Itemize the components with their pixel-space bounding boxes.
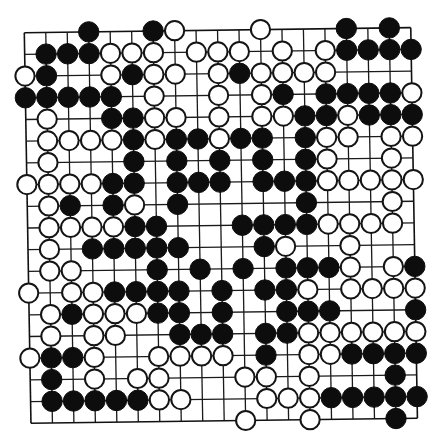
white-stone (404, 170, 423, 189)
black-stone (210, 150, 230, 170)
black-stone (191, 324, 211, 344)
white-stone (341, 258, 360, 277)
black-stone (104, 282, 124, 302)
white-stone (84, 304, 103, 323)
white-stone (403, 127, 422, 146)
white-stone (40, 262, 59, 281)
white-stone (321, 323, 340, 342)
white-stone (122, 43, 141, 62)
white-stone (187, 43, 206, 62)
white-stone (273, 41, 292, 60)
black-stone (364, 387, 384, 407)
white-stone (341, 279, 360, 298)
white-stone (62, 261, 81, 280)
black-stone (42, 391, 62, 411)
white-stone (339, 171, 358, 190)
black-stone (58, 87, 78, 107)
black-stone (254, 236, 274, 256)
white-stone (300, 388, 319, 407)
black-stone (316, 105, 336, 125)
white-stone (257, 389, 276, 408)
white-stone (385, 322, 404, 341)
black-stone (170, 324, 190, 344)
black-stone (253, 150, 273, 170)
black-stone (167, 194, 187, 214)
white-stone (209, 107, 228, 126)
black-stone (381, 105, 401, 125)
white-stone (39, 175, 58, 194)
white-stone (340, 236, 359, 255)
white-stone (84, 283, 103, 302)
white-stone (85, 370, 104, 389)
white-stone (301, 410, 320, 429)
white-stone (17, 175, 36, 194)
white-stone (295, 63, 314, 82)
black-stone (128, 390, 148, 410)
white-stone (384, 257, 403, 276)
black-stone (401, 39, 421, 59)
black-stone (189, 172, 209, 192)
white-stone (105, 304, 124, 323)
white-stone (252, 85, 271, 104)
white-stone (38, 110, 57, 129)
white-stone (274, 107, 293, 126)
black-stone (210, 172, 230, 192)
black-stone (319, 257, 339, 277)
black-stone (123, 130, 143, 150)
black-stone (63, 391, 83, 411)
black-stone (275, 214, 295, 234)
white-stone (209, 64, 228, 83)
white-stone (39, 196, 58, 215)
white-stone (251, 20, 270, 39)
black-stone (166, 129, 186, 149)
white-stone (382, 170, 401, 189)
white-stone (171, 347, 190, 366)
black-stone (316, 84, 336, 104)
white-stone (319, 215, 338, 234)
white-stone (128, 369, 147, 388)
black-stone (342, 387, 362, 407)
white-stone (40, 218, 59, 237)
black-stone (297, 214, 317, 234)
white-stone (82, 218, 101, 237)
white-stone (382, 149, 401, 168)
white-stone (209, 86, 228, 105)
black-stone (148, 303, 168, 323)
black-stone (255, 280, 275, 300)
white-stone (279, 389, 298, 408)
black-stone (358, 40, 378, 60)
black-stone (147, 238, 167, 258)
black-stone (336, 18, 356, 38)
white-stone (15, 67, 34, 86)
black-stone (276, 258, 296, 278)
black-stone (233, 258, 253, 278)
black-stone (62, 304, 82, 324)
white-stone (318, 149, 337, 168)
black-stone (359, 83, 379, 103)
white-stone (236, 411, 255, 430)
white-stone (82, 174, 101, 193)
black-stone (295, 149, 315, 169)
black-stone (274, 171, 294, 191)
white-stone (299, 345, 318, 364)
black-stone (41, 348, 61, 368)
white-stone (210, 129, 229, 148)
white-stone (276, 237, 295, 256)
white-stone (144, 43, 163, 62)
white-stone (19, 284, 38, 303)
white-stone (235, 368, 254, 387)
black-stone (386, 408, 406, 428)
black-stone (169, 303, 189, 323)
black-stone (167, 172, 187, 192)
black-stone (143, 21, 163, 41)
white-stone (257, 367, 276, 386)
black-stone (296, 193, 316, 213)
white-stone (149, 369, 168, 388)
black-stone (212, 302, 232, 322)
black-stone (321, 388, 341, 408)
black-stone (80, 87, 100, 107)
white-stone (41, 305, 60, 324)
white-stone (361, 171, 380, 190)
black-stone (213, 324, 233, 344)
black-stone (167, 151, 187, 171)
